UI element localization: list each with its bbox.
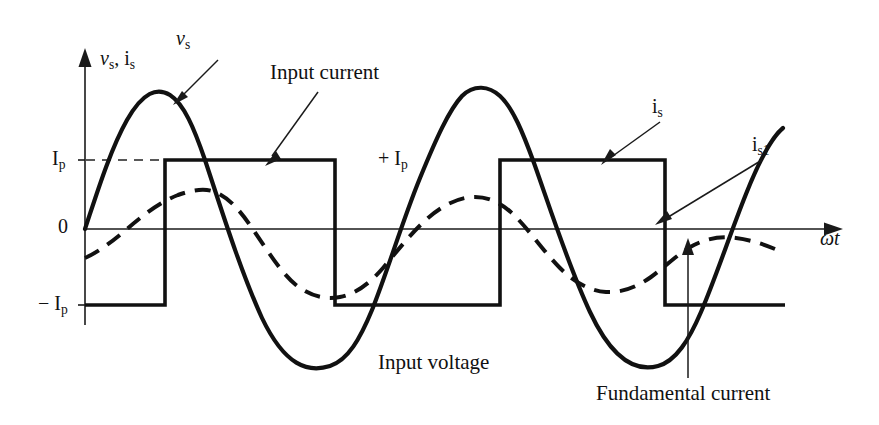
vs-label: vs bbox=[176, 28, 190, 51]
vs-leader bbox=[173, 60, 218, 105]
x-axis-label: ωt bbox=[820, 228, 840, 248]
y-axis-label: vs, is bbox=[100, 48, 135, 71]
y-axis-arrowhead bbox=[79, 48, 92, 67]
y-tick-label-ip-negative: − Ip bbox=[38, 293, 68, 316]
fundamental-current-leader bbox=[682, 238, 694, 378]
is-label: is bbox=[652, 96, 663, 119]
input-current-leader bbox=[265, 92, 318, 166]
fundamental-current-label: Fundamental current bbox=[596, 383, 770, 404]
input-voltage-curve bbox=[85, 88, 783, 369]
input-voltage-label: Input voltage bbox=[378, 352, 489, 373]
is1-label: is1 bbox=[752, 134, 770, 157]
fundamental-current-curve bbox=[85, 190, 782, 298]
y-tick-label-ip-positive: Ip bbox=[52, 148, 65, 171]
waveform-figure: vs, is vs Ip 0 − Ip + Ip Input current i… bbox=[0, 0, 879, 425]
input-current-square-wave bbox=[85, 160, 785, 305]
input-current-label: Input current bbox=[270, 62, 379, 83]
y-axis bbox=[79, 48, 92, 325]
y-tick-label-zero: 0 bbox=[58, 216, 68, 236]
plus-ip-label: + Ip bbox=[378, 148, 408, 171]
y-axis-ticks bbox=[78, 160, 85, 305]
